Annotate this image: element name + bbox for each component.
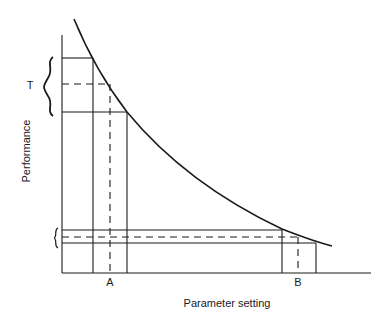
t-range-brace [44, 57, 53, 116]
marker-b-label: B [294, 276, 301, 288]
b-range-brace [54, 228, 58, 248]
marker-a-label: A [106, 276, 114, 288]
t-label: T [27, 79, 34, 91]
x-axis-label: Parameter setting [184, 297, 271, 309]
y-axis-label: Performance [20, 120, 32, 183]
diagram-canvas: T A B Parameter setting Performance [0, 0, 387, 320]
performance-curve [74, 19, 332, 246]
